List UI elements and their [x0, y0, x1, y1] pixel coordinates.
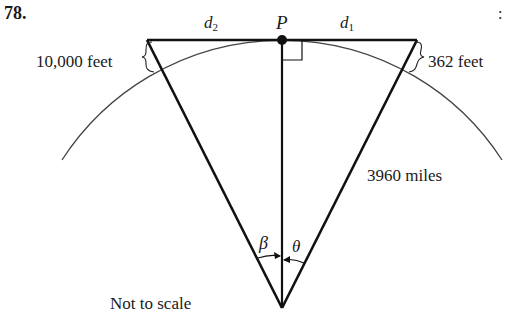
d2-variable: d — [204, 13, 213, 32]
theta-arrowhead-icon — [283, 256, 290, 263]
d1-subscript: 1 — [349, 21, 355, 33]
d1-variable: d — [340, 13, 349, 32]
stray-mark: : — [498, 6, 502, 22]
beta-arrowhead-icon — [274, 252, 281, 259]
right-brace-icon — [409, 42, 424, 72]
beta-label: β — [259, 234, 268, 252]
right-height-label: 362 feet — [428, 53, 483, 70]
earth-geometry-diagram — [0, 0, 508, 318]
radius-label: 3960 miles — [367, 167, 442, 184]
point-p-dot — [277, 35, 287, 45]
d2-label: d2 — [204, 14, 218, 33]
left-height-label: 10,000 feet — [36, 53, 112, 70]
left-slant-line — [147, 40, 282, 308]
d1-label: d1 — [340, 14, 354, 33]
problem-number: 78. — [4, 4, 27, 22]
d2-subscript: 2 — [213, 21, 219, 33]
not-to-scale-caption: Not to scale — [110, 295, 191, 312]
theta-label: θ — [292, 238, 300, 255]
left-brace-icon — [142, 42, 154, 72]
point-p-label: P — [276, 13, 288, 32]
